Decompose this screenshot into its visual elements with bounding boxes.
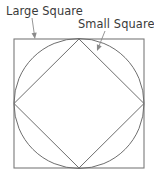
- small-square-label: Small Square: [78, 17, 154, 31]
- small-square-shape: [14, 39, 144, 168]
- circle-shape: [14, 39, 144, 169]
- figure-canvas: Large Square Small Square: [0, 0, 154, 179]
- small-square-arrow-icon: [97, 44, 102, 51]
- large-square-label: Large Square: [6, 4, 83, 18]
- large-square-leader: [32, 18, 37, 39]
- large-square-shape: [14, 39, 144, 168]
- large-square-arrow-icon: [32, 32, 37, 39]
- large-square-leader-line: [32, 18, 34, 35]
- geometry-figure: Large Square Small Square: [0, 0, 154, 179]
